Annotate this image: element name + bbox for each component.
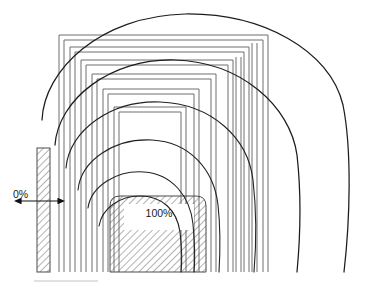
left-electrode-body [37,148,50,272]
diagram-canvas: 0% 100% [0,0,370,287]
track-stub-right-2 [236,57,241,272]
left-electrode [37,148,50,272]
label-zero-percent: 0% [13,188,28,200]
label-hundred-percent: 100% [146,207,173,219]
field-plot-svg: 0% 100% [0,0,370,287]
